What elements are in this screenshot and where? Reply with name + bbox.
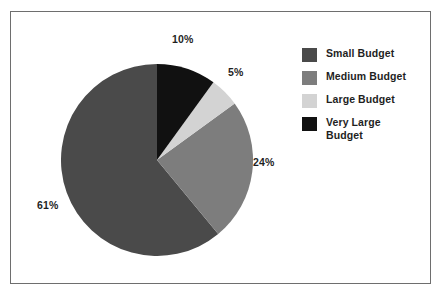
legend-item-very-large-budget[interactable]: Very Large Budget	[302, 116, 424, 142]
legend-label-medium-budget: Medium Budget	[326, 70, 406, 83]
pie-chart	[61, 64, 253, 256]
legend-label-very-large-budget: Very Large Budget	[326, 116, 404, 142]
legend-swatch-icon-small-budget	[302, 48, 317, 62]
legend-swatch-icon-medium-budget	[302, 71, 317, 85]
pie-label-small-budget: 61%	[37, 199, 59, 211]
pie-label-very-large-budget: 10%	[172, 33, 194, 45]
chart-canvas: 10% 5% 24% 61% Small Budget Medium Budge…	[0, 0, 442, 295]
chart-legend: Small Budget Medium Budget Large Budget …	[302, 47, 424, 150]
legend-item-small-budget[interactable]: Small Budget	[302, 47, 424, 62]
legend-swatch-icon-very-large-budget	[302, 117, 317, 131]
pie-label-large-budget: 5%	[228, 66, 244, 78]
legend-label-large-budget: Large Budget	[326, 93, 395, 106]
pie-chart-svg	[61, 64, 253, 256]
legend-swatch-icon-large-budget	[302, 94, 317, 108]
pie-label-medium-budget: 24%	[253, 156, 275, 168]
legend-item-medium-budget[interactable]: Medium Budget	[302, 70, 424, 85]
legend-label-small-budget: Small Budget	[326, 47, 394, 60]
legend-item-large-budget[interactable]: Large Budget	[302, 93, 424, 108]
